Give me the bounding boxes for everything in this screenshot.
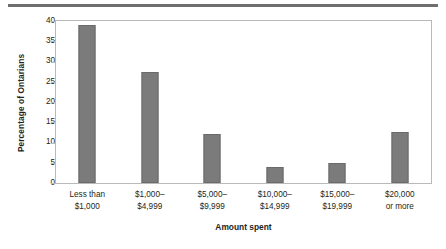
bar-slot (181, 21, 244, 183)
x-tick-label-line: $1,000 (56, 201, 119, 213)
bar[interactable] (141, 72, 158, 183)
x-tick-label-line: $4,999 (119, 201, 182, 213)
bar[interactable] (204, 134, 221, 183)
x-tick-label: $1,000–$4,999 (119, 189, 182, 212)
bar[interactable] (329, 163, 346, 183)
bar-chart-figure: Percentage of Ontarians 0510152025303540… (0, 0, 446, 249)
x-tick-label-line: $19,999 (306, 201, 369, 213)
x-tick-label-line: $5,000– (181, 189, 244, 201)
bar[interactable] (266, 167, 283, 183)
bar[interactable] (391, 132, 408, 183)
x-tick-label: $10,000–$14,999 (244, 189, 307, 212)
x-tick-label-line: $14,999 (244, 201, 307, 213)
x-tick-label: $5,000–$9,999 (181, 189, 244, 212)
x-axis-title: Amount spent (56, 222, 431, 232)
y-axis-title: Percentage of Ontarians (16, 28, 26, 178)
bar[interactable] (79, 25, 96, 183)
bar-slot (306, 21, 369, 183)
x-tick-label-line: $9,999 (181, 201, 244, 213)
bar-slot (369, 21, 432, 183)
x-tick-label-line: Less than (56, 189, 119, 201)
bar-slot (56, 21, 119, 183)
x-tick-label: $20,000or more (369, 189, 432, 212)
bar-slot (244, 21, 307, 183)
bar-slot (119, 21, 182, 183)
x-tick-label: $15,000–$19,999 (306, 189, 369, 212)
x-tick-label-line: $15,000– (306, 189, 369, 201)
x-tick-label-line: $1,000– (119, 189, 182, 201)
x-tick-label-line: $20,000 (369, 189, 432, 201)
y-axis-ticks: 0510152025303540 (28, 0, 55, 249)
x-axis-tick-labels: Less than$1,000$1,000–$4,999$5,000–$9,99… (56, 189, 431, 223)
x-tick-label-line: $10,000– (244, 189, 307, 201)
top-divider-rule (8, 4, 438, 7)
x-tick-label-line: or more (369, 201, 432, 213)
x-tick-label: Less than$1,000 (56, 189, 119, 212)
bar-series (56, 21, 431, 183)
